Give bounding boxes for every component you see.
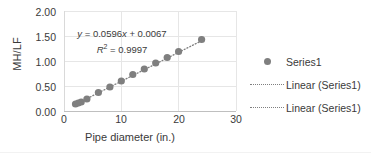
r-squared-symbol: R xyxy=(97,44,104,55)
data-point xyxy=(129,71,136,78)
data-point xyxy=(95,89,102,96)
equation-slope: = 0.0596 xyxy=(82,28,122,39)
x-tick-label: 20 xyxy=(164,113,194,125)
legend-item-trendline-2: Linear (Series1) xyxy=(248,96,371,119)
x-tick-label: 10 xyxy=(106,113,136,125)
equation-text: y = 0.0596x + 0.0067 xyxy=(58,28,186,41)
x-tick-label: 30 xyxy=(221,113,251,125)
legend-item-label: Series1 xyxy=(286,56,322,68)
equation-intercept: + 0.0067 xyxy=(127,28,167,39)
x-tick-label: 0 xyxy=(49,113,79,125)
data-point xyxy=(118,77,125,84)
x-axis-title: Pipe diameter (in.) xyxy=(24,131,236,143)
legend-dotted-line-icon xyxy=(248,79,286,91)
bottom-divider xyxy=(0,152,371,153)
r-squared-value: = 0.9997 xyxy=(107,44,147,55)
legend-dotted-line-icon xyxy=(248,102,286,114)
data-point xyxy=(106,83,113,90)
data-point xyxy=(198,36,205,43)
gridlines xyxy=(64,11,236,111)
data-point xyxy=(83,95,90,102)
data-point xyxy=(141,65,148,72)
legend-marker-icon xyxy=(248,56,286,68)
scatter-chart: MH/LF 2.00 1.50 1.00 0.50 0.00 xyxy=(0,0,371,155)
legend-item-label: Linear (Series1) xyxy=(286,79,361,91)
legend-item-label: Linear (Series1) xyxy=(286,102,361,114)
r-squared-text: R2 = 0.9997 xyxy=(58,41,186,57)
trendline-equation-annotation: y = 0.0596x + 0.0067 R2 = 0.9997 xyxy=(58,28,186,56)
chart-legend: Series1 Linear (Series1) Linear (Series1… xyxy=(248,50,371,119)
legend-item-series1: Series1 xyxy=(248,50,371,73)
legend-item-trendline-1: Linear (Series1) xyxy=(248,73,371,96)
data-point xyxy=(152,59,159,66)
